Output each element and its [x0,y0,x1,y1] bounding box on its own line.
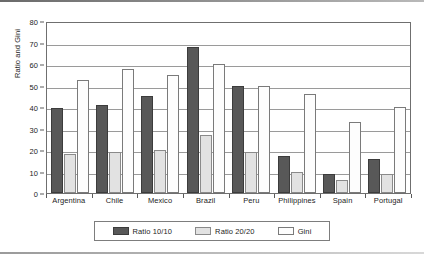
y-tick-mark-70 [40,43,44,44]
x-tick-label: Brazil [183,196,229,205]
bar-group [365,23,410,193]
bar[interactable] [187,47,199,193]
y-tick-label-60: 60 [29,61,38,70]
top-edge-band [0,0,424,2]
legend-swatch-icon [195,227,211,235]
bar[interactable] [381,174,393,193]
bar[interactable] [213,64,225,193]
y-tick-mark-30 [40,129,44,130]
bar[interactable] [154,150,166,193]
legend-item[interactable]: Gini [278,227,312,236]
legend-item[interactable]: Ratio 20/20 [195,227,254,236]
legend-swatch-icon [278,227,294,235]
x-tick-label: Mexico [137,196,183,205]
bar[interactable] [258,86,270,194]
y-tick-mark-0 [40,194,44,195]
bar[interactable] [51,108,63,193]
bar[interactable] [77,80,89,193]
legend-label: Gini [298,227,312,236]
bar[interactable] [394,107,406,193]
y-tick-label-70: 70 [29,39,38,48]
y-tick-label-40: 40 [29,104,38,113]
bar[interactable] [323,174,335,193]
y-tick-label-10: 10 [29,168,38,177]
y-axis: 01020304050607080 [0,22,44,194]
bar-group [229,23,274,193]
chart-legend: Ratio 10/10Ratio 20/20Gini [94,221,330,241]
bar[interactable] [304,94,316,193]
bar[interactable] [336,180,348,193]
chart-screenshot: Ratio and Gini 01020304050607080 Argenti… [0,0,424,258]
bar[interactable] [349,122,361,193]
bar-groups [47,23,410,193]
legend-label: Ratio 10/10 [133,227,172,236]
bar-group [138,23,183,193]
x-tick-label: Chile [92,196,138,205]
y-tick-mark-40 [40,108,44,109]
y-tick-mark-20 [40,151,44,152]
bar[interactable] [141,96,153,193]
bar[interactable] [291,172,303,194]
bar-group [47,23,92,193]
bar[interactable] [96,105,108,193]
x-tick-label: Argentina [46,196,92,205]
legend-label: Ratio 20/20 [215,227,254,236]
bar[interactable] [122,69,134,193]
bar[interactable] [232,86,244,194]
bar-group [92,23,137,193]
y-tick-label-30: 30 [29,125,38,134]
bar[interactable] [245,152,257,193]
x-axis-labels: ArgentinaChileMexicoBrazilPeruPhilippine… [46,196,411,205]
y-tick-mark-10 [40,172,44,173]
bar[interactable] [167,75,179,193]
bar[interactable] [64,154,76,193]
x-tick-mark [411,194,412,198]
y-tick-label-20: 20 [29,147,38,156]
y-tick-label-50: 50 [29,82,38,91]
x-tick-label: Spain [320,196,366,205]
x-tick-label: Philippines [274,196,320,205]
legend-item[interactable]: Ratio 10/10 [113,227,172,236]
y-tick-mark-50 [40,86,44,87]
plot-area [46,22,411,194]
bar[interactable] [200,135,212,193]
y-tick-label-0: 0 [34,190,38,199]
x-tick-label: Portugal [365,196,411,205]
x-tick-label: Peru [229,196,275,205]
bar-group [183,23,228,193]
bar-group [319,23,364,193]
y-tick-mark-60 [40,65,44,66]
bar[interactable] [109,152,121,193]
bar[interactable] [278,156,290,193]
bar-group [274,23,319,193]
bar[interactable] [368,159,380,193]
bottom-edge-band [0,252,424,254]
y-tick-mark-80 [40,22,44,23]
legend-swatch-icon [113,227,129,235]
y-tick-label-80: 80 [29,18,38,27]
